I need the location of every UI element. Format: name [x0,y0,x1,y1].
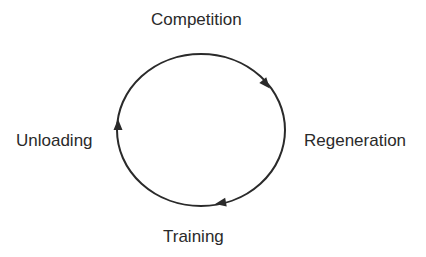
cycle-diagram: Competition Regeneration Training Unload… [0,0,426,257]
cycle-ellipse [117,54,285,206]
node-label-unloading: Unloading [16,132,93,149]
arrow-icon-bottom [214,198,226,209]
node-label-competition: Competition [151,11,242,28]
cycle-ellipse-graphic [0,0,426,257]
node-label-regeneration: Regeneration [304,132,406,149]
node-label-training: Training [163,228,224,245]
arrow-icon-left [114,119,123,130]
